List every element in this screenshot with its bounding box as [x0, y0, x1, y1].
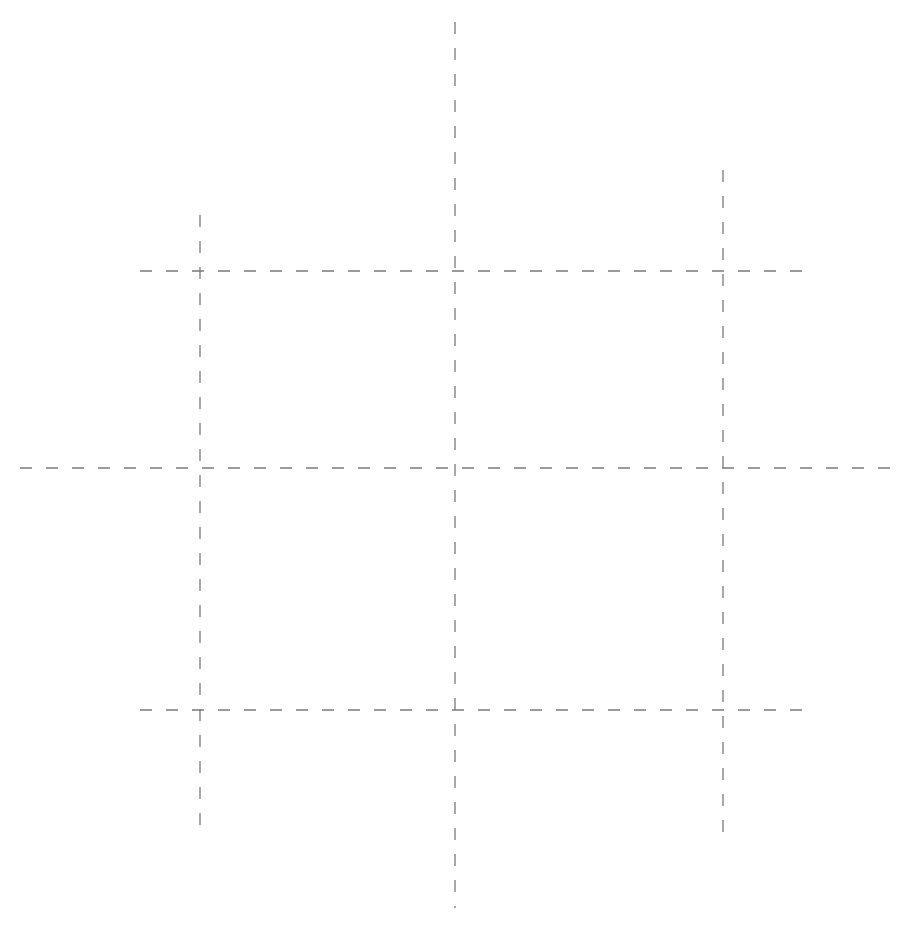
dashed-grid-diagram — [0, 0, 914, 926]
